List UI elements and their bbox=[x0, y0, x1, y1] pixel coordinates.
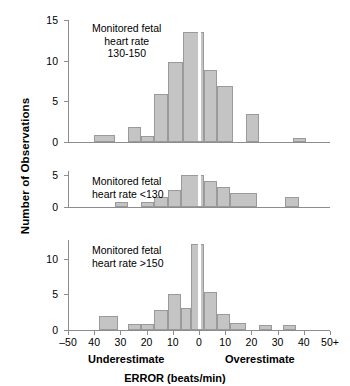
x-tick bbox=[278, 331, 279, 335]
x-axis-ticks: –504030201001020304050+ bbox=[0, 0, 350, 386]
x-tick bbox=[225, 331, 226, 335]
x-tick bbox=[304, 331, 305, 335]
x-tick bbox=[120, 331, 121, 335]
x-tick-label: 50+ bbox=[315, 337, 345, 348]
x-tick bbox=[251, 331, 252, 335]
figure-root: Number of Observations 051015Monitored f… bbox=[0, 0, 350, 386]
x-tick bbox=[68, 331, 69, 335]
x-tick bbox=[147, 331, 148, 335]
x-tick bbox=[330, 331, 331, 335]
x-tick bbox=[173, 331, 174, 335]
x-tick bbox=[199, 331, 200, 335]
x-tick bbox=[94, 331, 95, 335]
